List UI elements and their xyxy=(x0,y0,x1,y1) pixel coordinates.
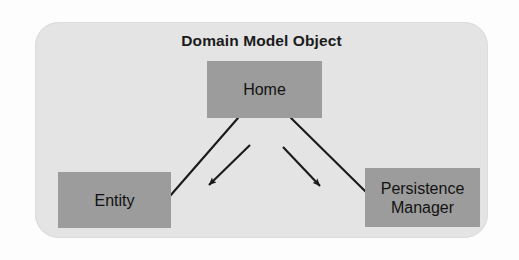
node-home-label: Home xyxy=(243,80,286,99)
node-entity-label: Entity xyxy=(94,191,134,210)
node-persistence-manager[interactable]: Persistence Manager xyxy=(365,168,480,227)
node-home[interactable]: Home xyxy=(207,61,322,118)
diagram-canvas: Domain Model Object Home Entity Persiste… xyxy=(0,0,519,260)
node-entity[interactable]: Entity xyxy=(58,172,171,228)
node-persistence-manager-label: Persistence Manager xyxy=(381,179,465,217)
container-title: Domain Model Object xyxy=(35,32,488,50)
